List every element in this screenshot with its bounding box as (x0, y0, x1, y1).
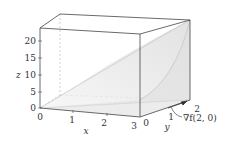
gradient-annotation: ∇f(2, 0) (183, 113, 217, 123)
surface (40, 20, 190, 117)
z-tick-0: 0 (30, 103, 36, 113)
z-tick-5: 5 (30, 87, 36, 97)
x-tick-2: 2 (101, 118, 107, 128)
x-tick-3: 3 (131, 121, 137, 131)
y-axis-label: y (163, 122, 170, 132)
z-tick-10: 10 (25, 70, 37, 80)
x-tick-1: 1 (69, 115, 75, 125)
y-tick-1: 1 (168, 112, 174, 122)
plot-canvas: 0 5 10 15 20 z 0 1 2 3 x 0 1 2 y ∇f(2, 0… (0, 0, 236, 143)
z-tick-20: 20 (25, 36, 37, 46)
z-tick-15: 15 (25, 53, 37, 63)
x-tick-0: 0 (37, 112, 43, 122)
z-axis-label: z (15, 70, 21, 80)
y-tick-0: 0 (143, 118, 149, 128)
x-axis-label: x (83, 126, 88, 136)
